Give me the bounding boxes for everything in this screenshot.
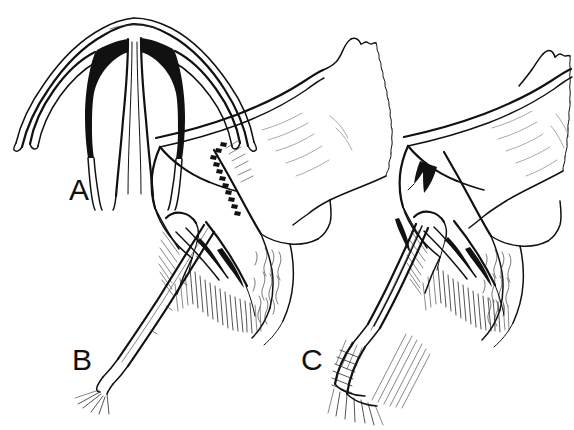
- mucosa-texture-b: [253, 248, 281, 324]
- panel-label-b: B: [72, 345, 92, 375]
- black-arrow-indicator-c: [408, 161, 437, 193]
- vestibule-hatch-b: [159, 232, 179, 295]
- panel-c-drawing: [328, 51, 572, 425]
- forceps-striation: [372, 334, 430, 408]
- forceps-instrument-c[interactable]: [328, 224, 430, 425]
- panel-label-c: C: [301, 345, 323, 375]
- figure-container: A B C: [0, 0, 574, 430]
- panel-label-a: A: [69, 175, 89, 205]
- panel-a-drawing: [14, 18, 257, 210]
- mucosa-texture-c: [483, 250, 511, 326]
